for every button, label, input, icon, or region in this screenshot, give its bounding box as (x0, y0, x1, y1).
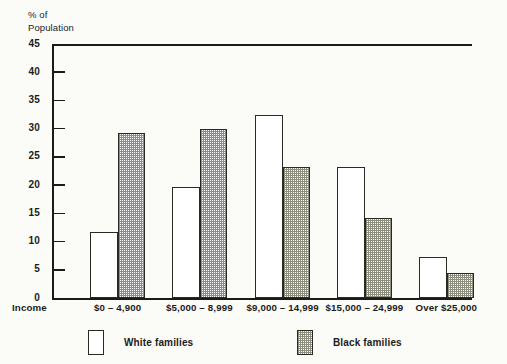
x-axis-tick-label: $9,000 – 14,999 (247, 302, 319, 313)
bar-black-1 (200, 129, 228, 298)
dotted-swatch (297, 330, 313, 355)
x-axis-tick-label: $5,000 – 8,999 (166, 302, 233, 313)
bar-white-2 (255, 115, 283, 298)
bar-white-1 (172, 187, 200, 298)
bar-black-4 (447, 273, 475, 298)
bar-white-4 (419, 257, 447, 298)
y-axis-tick-label: 5 (8, 263, 40, 274)
bar-black-3 (365, 218, 393, 298)
y-axis-tick-label: 25 (8, 150, 40, 161)
white-swatch (88, 330, 104, 355)
x-axis-line (52, 298, 472, 300)
y-axis-tick-label: 15 (8, 207, 40, 218)
bar-white-3 (337, 167, 365, 299)
legend-label: Black families (333, 337, 402, 348)
legend-label: White families (124, 337, 193, 348)
y-axis-tick-label: 20 (8, 179, 40, 190)
y-axis-tick-label: 0 (8, 292, 40, 303)
x-axis-tick-label: Over $25,000 (416, 302, 478, 313)
y-axis-tick-label: 45 (8, 38, 40, 49)
y-axis-tick-label: 10 (8, 235, 40, 246)
x-axis-title: Income (12, 302, 47, 313)
x-axis-tick-label: $15,000 – 24,999 (326, 302, 404, 313)
y-axis-tick-label: 40 (8, 66, 40, 77)
y-axis-title: % of Population (28, 9, 74, 34)
plot-area (52, 44, 472, 298)
bar-chart-figure: % of Population 051015202530354045 Incom… (0, 0, 507, 364)
bar-black-2 (283, 167, 311, 299)
bar-black-0 (118, 133, 146, 298)
y-axis-tick-label: 35 (8, 94, 40, 105)
bar-white-0 (90, 232, 118, 298)
y-axis-tick-label: 30 (8, 122, 40, 133)
legend-item-black-families[interactable]: Black families (297, 330, 402, 355)
x-axis-tick-label: $0 – 4,900 (94, 302, 141, 313)
legend-item-white-families[interactable]: White families (88, 330, 193, 355)
